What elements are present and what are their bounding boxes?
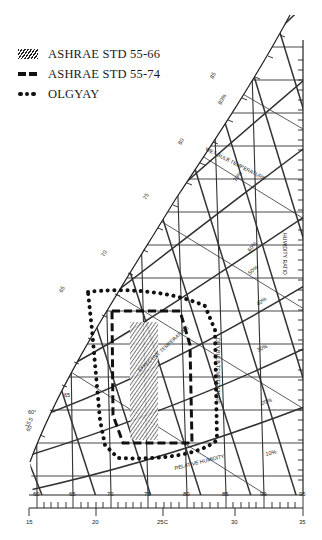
legend-item-olgyay: OLGYAY [18, 84, 160, 104]
f-tick-65: 65 [69, 491, 76, 497]
dotted-swatch-icon [18, 89, 38, 99]
legend-item-ashrae-55-66: ASHRAE STD 55-66 [18, 44, 160, 64]
hatched-swatch-icon [18, 49, 38, 59]
f-tick-85: 85 [222, 491, 229, 497]
legend-label: ASHRAE STD 55-74 [48, 67, 160, 82]
right-axis-ticks [298, 60, 303, 480]
f-tick-70: 70 [107, 491, 114, 497]
c-tick-20: 20 [92, 519, 99, 525]
c-tick-35: 35 [299, 519, 306, 525]
legend: ASHRAE STD 55-66 ASHRAE STD 55-74 OLGYAY [18, 44, 160, 104]
legend-item-ashrae-55-74: ASHRAE STD 55-74 [18, 64, 160, 84]
sat-label-85: 85 [209, 71, 217, 79]
f-tick-95: 95 [299, 491, 306, 497]
bottom-axis-ticks [29, 495, 303, 516]
f-tick-75: 75 [144, 491, 151, 497]
sat-label-65: 65 [58, 285, 66, 293]
sat-label-70: 70 [100, 249, 108, 257]
relative-humidity-label: RELATIVE HUMIDITY [174, 453, 226, 471]
rh-80-label: 80% [217, 93, 228, 106]
legend-label: OLGYAY [48, 87, 99, 102]
db-label-155: 15.5 [24, 416, 35, 428]
humidity-ratio-lines [0, 47, 322, 476]
c-tick-15: 15 [26, 519, 33, 525]
dashed-swatch-icon [18, 69, 38, 79]
rh-10-label: 10% [265, 448, 277, 457]
sat-label-80: 80 [177, 137, 185, 145]
ashrae-55-66-zone [130, 322, 158, 440]
db-label-65: 65 [64, 392, 70, 398]
rh-40-label: 40% [255, 296, 268, 307]
db-label-60: 60° [28, 409, 36, 415]
sat-label-75: 75 [142, 192, 150, 200]
rh-60-label: 60% [246, 240, 258, 252]
humidity-ratio-label: HUMIDITY RATIO [282, 233, 288, 275]
c-tick-25: 25C [157, 519, 169, 525]
rh-20-label: 20% [260, 396, 272, 405]
f-tick-90: 90 [260, 491, 267, 497]
f-tick-60: 60 [33, 491, 40, 497]
dry-bulb-label: DRY-BULB TEMPERATURE [215, 338, 221, 404]
legend-label: ASHRAE STD 55-66 [48, 47, 160, 62]
c-tick-30: 30 [231, 519, 238, 525]
f-tick-80: 80 [183, 491, 190, 497]
